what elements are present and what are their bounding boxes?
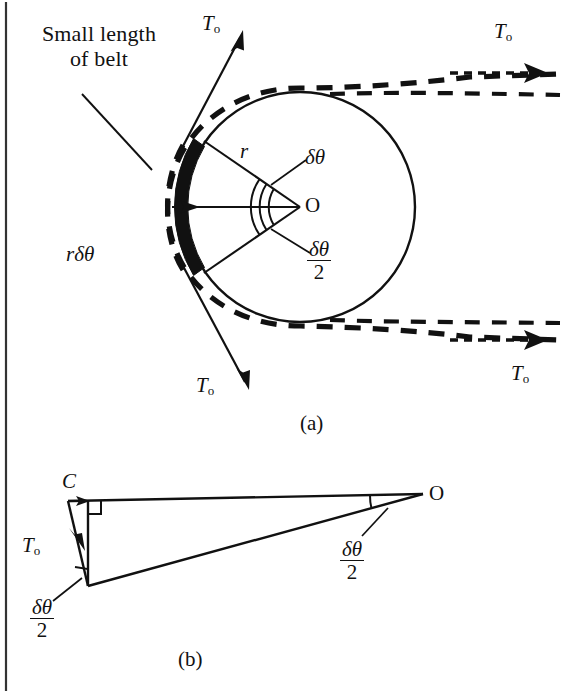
angle-leader-at-b-panel-b <box>53 578 82 601</box>
belt-tangent-dashed-upper <box>330 93 560 95</box>
tension-subscript: o <box>214 21 221 36</box>
triangle-edge-bo <box>88 494 423 586</box>
tension-symbol: T <box>511 361 523 385</box>
half-angle-numerator: δθ <box>307 238 331 260</box>
angle-b-numerator: δθ <box>30 596 54 618</box>
angle-leader-lower <box>271 229 310 253</box>
tension-arrowhead-top-left <box>231 30 245 52</box>
tension-subscript: o <box>208 383 215 398</box>
belt-tangent-dashed-lower <box>330 320 560 323</box>
note-leader-line <box>82 94 152 170</box>
panel-b-vertex-o-label: O <box>429 482 444 506</box>
triangle-edge-cb <box>68 501 88 586</box>
note-line-1: Small length <box>14 22 184 47</box>
angle-label-delta-theta: δθ <box>305 146 325 170</box>
angle-arc-at-o-panel-b <box>370 495 372 509</box>
center-label-o: O <box>305 194 320 218</box>
tension-symbol: T <box>196 373 208 397</box>
angle-o-fraction: δθ 2 <box>340 538 364 584</box>
tension-subscript: o <box>506 29 513 44</box>
angle-label-half: δθ 2 <box>307 238 331 284</box>
panel-a-label: (a) <box>300 412 323 436</box>
force-label: F <box>176 178 189 202</box>
angle-o-numerator: δθ <box>340 538 364 560</box>
tension-symbol: T <box>494 19 506 43</box>
arc-length-delta-symbol: δθ <box>74 242 94 266</box>
panel-b-label: (b) <box>178 648 203 672</box>
note-line-2: of belt <box>14 47 184 72</box>
half-angle-fraction: δθ 2 <box>307 238 331 284</box>
tension-arrowhead-panel-b <box>69 528 85 551</box>
panel-b-vertex-c-label: C <box>62 470 76 494</box>
figure-drawing <box>0 0 572 693</box>
radius-label: r <box>240 140 248 164</box>
half-angle-denominator: 2 <box>307 260 331 284</box>
arc-length-label: rδθ <box>66 243 94 267</box>
tension-arrow-top-left <box>182 38 240 148</box>
angle-leader-at-o-panel-b <box>362 508 388 536</box>
panel-b-tension-label: To <box>22 534 40 558</box>
panel-b-angle-at-b: δθ 2 <box>30 596 54 642</box>
tension-label-top-right: To <box>494 20 512 44</box>
tension-symbol: T <box>22 533 34 557</box>
tension-subscript: o <box>523 371 530 386</box>
panel-b-angle-at-o: δθ 2 <box>340 538 364 584</box>
tension-symbol: T <box>202 11 214 35</box>
arc-length-leader-line <box>118 245 175 263</box>
small-length-note: Small length of belt <box>14 22 184 71</box>
angle-b-denominator: 2 <box>30 618 54 642</box>
tension-label-top-left: To <box>202 12 220 36</box>
belt-dashed-lower <box>168 145 560 340</box>
belt-dashed-upper <box>168 74 560 270</box>
tension-arrowhead-bottom-left <box>237 369 251 391</box>
angle-o-denominator: 2 <box>340 560 364 584</box>
right-angle-mark-top <box>88 501 101 514</box>
angle-leader-upper <box>271 160 306 185</box>
tension-label-bottom-right: To <box>511 362 529 386</box>
angle-b-fraction: δθ 2 <box>30 596 54 642</box>
tension-label-bottom-left: To <box>196 374 214 398</box>
figure-root: Small length of belt To To To To r F rδθ… <box>0 0 572 693</box>
tension-subscript: o <box>34 543 41 558</box>
arc-length-radius-symbol: r <box>66 242 74 266</box>
